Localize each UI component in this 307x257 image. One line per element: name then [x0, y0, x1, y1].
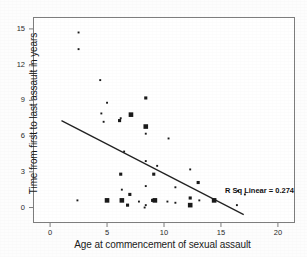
- data-point: [145, 204, 147, 206]
- data-point: [76, 199, 78, 201]
- data-point: [138, 201, 140, 203]
- data-point: [153, 198, 158, 203]
- data-point: [143, 124, 148, 129]
- data-point: [212, 198, 217, 203]
- x-tick-label: 5: [98, 228, 116, 237]
- data-point: [120, 198, 125, 203]
- data-point: [120, 117, 122, 119]
- data-points: [76, 32, 245, 209]
- data-point: [152, 173, 155, 176]
- x-tick-label: 10: [155, 228, 173, 237]
- data-point: [105, 198, 110, 203]
- data-point: [156, 165, 158, 167]
- data-point: [126, 204, 129, 207]
- data-point: [118, 119, 121, 122]
- data-point: [129, 112, 134, 117]
- y-tick-label: 6: [9, 131, 25, 140]
- scatter-chart: 03691215 05101520 Time from first to las…: [0, 0, 307, 257]
- data-point: [188, 203, 193, 208]
- data-point: [174, 202, 176, 204]
- data-point: [166, 201, 168, 203]
- r-squared-annotation: R Sq Linear = 0.274: [225, 186, 294, 195]
- x-tick-label: 20: [269, 228, 287, 237]
- data-point: [119, 173, 122, 176]
- y-tick-label: 0: [9, 203, 25, 212]
- data-point: [145, 185, 147, 187]
- data-point: [99, 79, 101, 81]
- data-point: [174, 186, 176, 188]
- data-point: [189, 196, 192, 199]
- data-point: [103, 121, 105, 123]
- data-point: [145, 133, 147, 135]
- y-tick-label: 15: [9, 24, 25, 33]
- data-point: [189, 168, 191, 170]
- y-tick-label: 9: [9, 95, 25, 104]
- data-point: [236, 204, 238, 206]
- y-axis-title: Time from first to last assault in years: [28, 19, 39, 209]
- axis-tick-marks: [29, 29, 278, 227]
- data-point: [123, 151, 125, 153]
- y-tick-label: 12: [9, 60, 25, 69]
- y-tick-label: 3: [9, 167, 25, 176]
- data-point: [144, 207, 146, 209]
- plot-canvas: [0, 0, 307, 257]
- data-point: [144, 96, 147, 99]
- x-tick-label: 0: [41, 228, 59, 237]
- data-point: [168, 138, 170, 140]
- data-point: [145, 160, 147, 162]
- data-point: [106, 102, 108, 104]
- data-point: [78, 32, 80, 34]
- data-point: [197, 181, 200, 184]
- data-point: [198, 199, 200, 201]
- data-point: [78, 48, 80, 50]
- x-axis-title: Age at commencement of sexual assault: [40, 239, 285, 250]
- data-point: [100, 113, 102, 115]
- data-point: [121, 189, 123, 191]
- data-point: [128, 193, 131, 196]
- x-tick-label: 15: [212, 228, 230, 237]
